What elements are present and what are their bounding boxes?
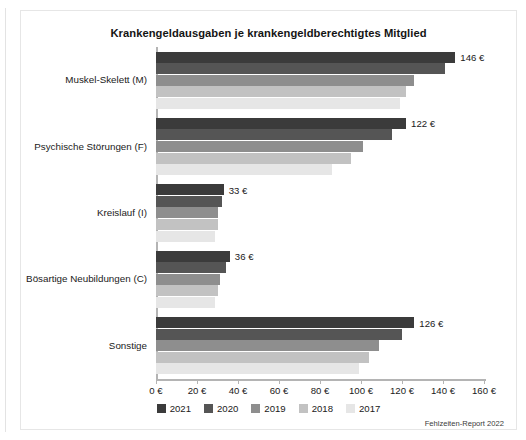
category-label: Bösartige Neubildungen (C): [21, 273, 147, 284]
chart-figure-card: Krankengeldausgaben je krankengeldberech…: [20, 10, 517, 430]
bar: [156, 75, 414, 86]
bar-group: Psychische Störungen (F)122 €: [21, 118, 516, 175]
bar: [156, 363, 359, 374]
bar-fill: [156, 231, 215, 242]
bar-fill: [156, 297, 215, 308]
x-axis-tick: [361, 379, 362, 384]
bar-fill: [156, 274, 220, 285]
bar-fill: [156, 118, 406, 129]
x-axis-tick-label: 160 €: [472, 385, 496, 396]
legend-swatch-icon: [204, 404, 213, 413]
bar-fill: [156, 317, 414, 328]
category-label: Psychische Störungen (F): [21, 141, 147, 152]
bar: [156, 340, 379, 351]
bar: [156, 164, 332, 175]
bar: [156, 352, 369, 363]
legend-swatch-icon: [251, 404, 260, 413]
bar: [156, 219, 218, 230]
x-axis-tick: [238, 379, 239, 384]
bar-fill: [156, 196, 222, 207]
legend-label: 2017: [359, 403, 380, 414]
bar-fill: [156, 141, 363, 152]
legend-label: 2020: [217, 403, 238, 414]
bar: 36 €: [156, 251, 230, 262]
chart-legend: 20212020201920182017: [21, 403, 516, 414]
legend-item-2019[interactable]: 2019: [251, 403, 285, 414]
bar: [156, 329, 402, 340]
legend-item-2017[interactable]: 2017: [346, 403, 380, 414]
bar-fill: [156, 153, 351, 164]
bar: 122 €: [156, 118, 406, 129]
bar-fill: [156, 98, 400, 109]
bar-group: Bösartige Neubildungen (C)36 €: [21, 251, 516, 308]
x-axis-tick-label: 120 €: [390, 385, 414, 396]
bar: [156, 153, 351, 164]
bar-group: Muskel-Skelett (M)146 €: [21, 52, 516, 109]
chart-title: Krankengeldausgaben je krankengeldberech…: [21, 27, 516, 39]
bar: [156, 285, 218, 296]
category-label: Sonstige: [21, 340, 147, 351]
category-label: Muskel-Skelett (M): [21, 74, 147, 85]
bar-fill: [156, 262, 226, 273]
bar-fill: [156, 184, 224, 195]
bar: [156, 129, 392, 140]
x-axis-tick: [279, 379, 280, 384]
bar-fill: [156, 219, 218, 230]
x-axis-tick: [320, 379, 321, 384]
legend-item-2020[interactable]: 2020: [204, 403, 238, 414]
bar-fill: [156, 129, 392, 140]
source-note: Fehlzeiten-Report 2022: [425, 419, 504, 428]
x-axis-tick: [443, 379, 444, 384]
bar-fill: [156, 52, 455, 63]
bar: [156, 274, 220, 285]
bar-fill: [156, 352, 369, 363]
bar: [156, 231, 215, 242]
legend-item-2021[interactable]: 2021: [157, 403, 191, 414]
bar: 126 €: [156, 317, 414, 328]
bar-fill: [156, 340, 379, 351]
x-axis-tick: [402, 379, 403, 384]
bar: [156, 86, 406, 97]
bar: [156, 196, 222, 207]
x-axis-tick-label: 60 €: [270, 385, 289, 396]
bar: [156, 262, 226, 273]
x-axis-tick-label: 140 €: [431, 385, 455, 396]
legend-label: 2021: [170, 403, 191, 414]
bar-fill: [156, 207, 218, 218]
bar: 33 €: [156, 184, 224, 195]
x-axis-tick-label: 100 €: [349, 385, 373, 396]
bar-group: Kreislauf (I)33 €: [21, 184, 516, 241]
bar: [156, 98, 400, 109]
x-axis-tick: [484, 379, 485, 384]
bar-value-label: 126 €: [419, 317, 443, 328]
bar: [156, 207, 218, 218]
bar-fill: [156, 75, 414, 86]
bar-value-label: 33 €: [229, 184, 248, 195]
legend-label: 2018: [312, 403, 333, 414]
legend-item-2018[interactable]: 2018: [299, 403, 333, 414]
bar-fill: [156, 329, 402, 340]
legend-swatch-icon: [299, 404, 308, 413]
bar: 146 €: [156, 52, 455, 63]
x-axis-tick: [156, 379, 157, 384]
bar-group: Sonstige126 €: [21, 317, 516, 374]
legend-swatch-icon: [346, 404, 355, 413]
x-axis-tick-label: 20 €: [188, 385, 207, 396]
bar-fill: [156, 363, 359, 374]
x-axis-line: [156, 379, 486, 381]
bar: [156, 297, 215, 308]
x-axis-tick-label: 0 €: [149, 385, 162, 396]
bar-fill: [156, 251, 230, 262]
bar-value-label: 146 €: [460, 52, 484, 63]
bar: [156, 63, 445, 74]
bar-fill: [156, 86, 406, 97]
x-axis-tick-label: 40 €: [229, 385, 248, 396]
legend-label: 2019: [264, 403, 285, 414]
bar-fill: [156, 285, 218, 296]
bar: [156, 141, 363, 152]
bar-fill: [156, 164, 332, 175]
bar-value-label: 36 €: [235, 251, 254, 262]
legend-swatch-icon: [157, 404, 166, 413]
x-axis-tick-label: 80 €: [311, 385, 330, 396]
bar-value-label: 122 €: [411, 118, 435, 129]
